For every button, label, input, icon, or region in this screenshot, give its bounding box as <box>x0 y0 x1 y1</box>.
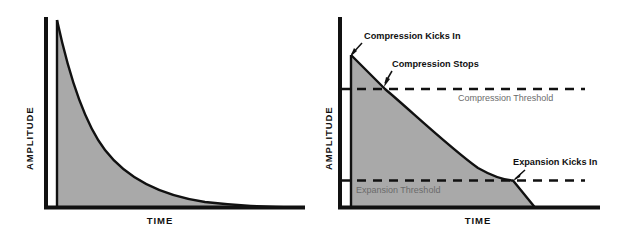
compression-kicks-in-label: Compression Kicks In <box>364 31 461 41</box>
expansion-kicks-in-label: Expansion Kicks In <box>513 157 598 167</box>
y-axis-label: AMPLITUDE <box>24 106 35 170</box>
y-axis-label: AMPLITUDE <box>323 106 334 170</box>
uncompressed-envelope-chart: AMPLITUDE TIME <box>0 0 319 237</box>
expansion-threshold-label: Expansion Threshold <box>356 185 440 195</box>
x-axis-label: TIME <box>465 215 491 226</box>
compression-threshold-label: Compression Threshold <box>458 93 553 103</box>
compressed-envelope-chart: Compression Kicks In Compression Stops E… <box>319 0 638 237</box>
compression-stops-label: Compression Stops <box>392 59 479 69</box>
x-axis-label: TIME <box>147 215 173 226</box>
envelope-compression-figure: AMPLITUDE TIME Compression Kicks In <box>0 0 638 237</box>
envelope-area-fill <box>57 20 301 208</box>
